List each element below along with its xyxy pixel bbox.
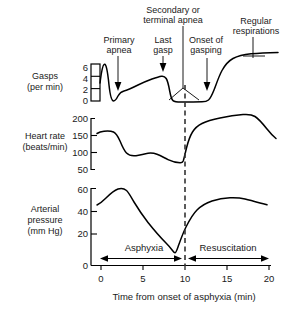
panel-gasps-tick-0: 0	[83, 95, 88, 106]
panel-arterial-pressure-tick-0: 0	[83, 260, 88, 271]
annotation-onset-of-gasping-line2: gasping	[190, 45, 222, 55]
annotation-onset-of-gasping-line1: Onset of	[189, 35, 224, 45]
annotation-secondary-terminal-apnea-line2: terminal apnea	[143, 15, 203, 25]
annotation-onset-of-gasping: Onset of gasping	[189, 35, 224, 91]
phase-resuscitation: Resuscitation	[188, 242, 269, 262]
annotation-last-gasp-arrowhead	[160, 63, 167, 72]
phase-asphyxia-arrow-right	[174, 255, 182, 262]
annotation-last-gasp: Last gasp	[153, 35, 173, 72]
panel-arterial-pressure-axis	[91, 189, 96, 266]
x-axis-tick-label-5: 5	[140, 273, 145, 284]
annotation-last-gasp-line2: gasp	[153, 45, 173, 55]
panel-arterial-pressure-tick-20: 20	[77, 228, 88, 239]
annotation-onset-of-gasping-arrowhead	[204, 82, 211, 91]
panel-gasps-label-line1: Gasps	[32, 71, 59, 81]
panel-heart-rate-label-line1: Heart rate	[25, 131, 65, 141]
panel-arterial-pressure-label-line3: (mm Hg)	[28, 226, 63, 236]
panel-heart-rate-label-line2: (beats/min)	[22, 142, 67, 152]
annotation-secondary-terminal-apnea-line1: Secondary or	[146, 5, 200, 15]
x-axis-tick-label-20: 20	[264, 273, 275, 284]
x-axis-tick-label-15: 15	[222, 273, 233, 284]
phase-asphyxia-label: Asphyxia	[125, 242, 164, 253]
curve-gasps	[100, 52, 278, 102]
panel-gasps-tick-4: 4	[83, 73, 88, 84]
panel-heart-rate-tick-100: 100	[72, 147, 88, 158]
panel-arterial-pressure-label-line2: pressure	[27, 215, 62, 225]
panel-heart-rate-axis	[91, 119, 95, 170]
panel-heart-rate-tick-200: 200	[72, 113, 88, 124]
panel-arterial-pressure-tick-60: 60	[77, 184, 88, 195]
phase-resuscitation-arrow-left	[188, 255, 196, 262]
annotation-regular-respirations-line1: Regular	[240, 16, 272, 26]
figure-caption	[0, 317, 303, 328]
panel-gasps-label-line2: (per min)	[27, 82, 63, 92]
x-axis-tick-label-0: 0	[98, 273, 103, 284]
phase-resuscitation-arrow-right	[261, 255, 269, 262]
panel-heart-rate-tick-150: 150	[72, 130, 88, 141]
annotation-primary-apnea-arrowhead	[115, 82, 122, 91]
x-axis: 0 5 10 15 20 Time from onset of asphyxia…	[91, 266, 274, 303]
curve-heart-rate	[97, 114, 276, 162]
panel-gasps-scale-box	[91, 64, 100, 101]
phase-resuscitation-label: Resuscitation	[199, 242, 256, 253]
annotation-last-gasp-line1: Last	[154, 35, 172, 45]
annotation-primary-apnea-line2: apnea	[106, 45, 131, 55]
panel-gasps-tick-2: 2	[83, 84, 88, 95]
panel-arterial-pressure-tick-40: 40	[77, 206, 88, 217]
annotation-regular-respirations-line2: respirations	[233, 26, 280, 36]
annotation-regular-respirations: Regular respirations	[233, 16, 280, 58]
figure-container: Primary apnea Last gasp Secondary or ter…	[0, 0, 303, 328]
panel-heart-rate: Heart rate (beats/min) 200 150 100 50	[22, 113, 276, 175]
panel-gasps-tick-6: 6	[83, 62, 88, 73]
panel-gasps: Gasps (per min) 6 4 2 0	[27, 52, 278, 106]
x-axis-tick-label-10: 10	[180, 273, 191, 284]
annotation-primary-apnea-line1: Primary	[104, 35, 135, 45]
phase-asphyxia-arrow-left	[100, 255, 108, 262]
panel-heart-rate-tick-50: 50	[77, 164, 88, 175]
x-axis-title: Time from onset of asphyxia (min)	[112, 291, 255, 302]
phase-asphyxia: Asphyxia	[100, 242, 182, 262]
panel-arterial-pressure-label-line1: Arterial	[31, 204, 60, 214]
physiology-chart: Primary apnea Last gasp Secondary or ter…	[0, 0, 303, 328]
